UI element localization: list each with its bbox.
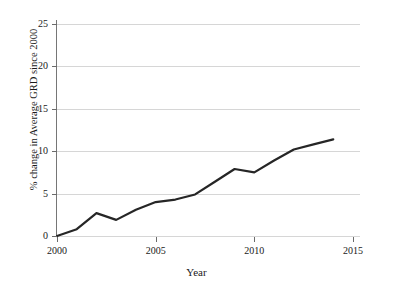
plot-area xyxy=(57,20,360,240)
x-tick-label: 2005 xyxy=(136,245,176,256)
y-tick-mark xyxy=(52,109,57,110)
x-tick-label: 2015 xyxy=(333,245,373,256)
y-tick-mark xyxy=(52,24,57,25)
y-tick-label: 0 xyxy=(26,231,48,241)
x-tick-mark xyxy=(254,237,255,242)
x-tick-mark xyxy=(57,237,58,242)
y-tick-mark xyxy=(52,151,57,152)
x-tick-mark xyxy=(156,237,157,242)
x-axis-title: Year xyxy=(0,266,393,278)
line-chart-figure: 0510152025 2000200520102015 % change in … xyxy=(0,0,393,289)
x-tick-mark xyxy=(353,237,354,242)
y-tick-mark xyxy=(52,66,57,67)
y-axis-title: % change in Average GRD since 2000 xyxy=(28,10,39,210)
x-tick-label: 2010 xyxy=(234,245,274,256)
y-tick-mark xyxy=(52,194,57,195)
x-tick-label: 2000 xyxy=(37,245,77,256)
data-series-line xyxy=(57,20,360,240)
